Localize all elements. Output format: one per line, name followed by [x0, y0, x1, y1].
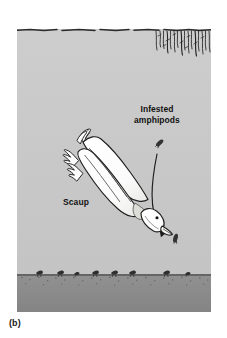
sediment-bed [17, 274, 211, 312]
scaup-eye [155, 216, 158, 219]
figure-panel: Infested amphipods Scaup [17, 22, 211, 312]
panel-caption: (b) [9, 318, 21, 329]
underwater-scene [17, 22, 211, 312]
